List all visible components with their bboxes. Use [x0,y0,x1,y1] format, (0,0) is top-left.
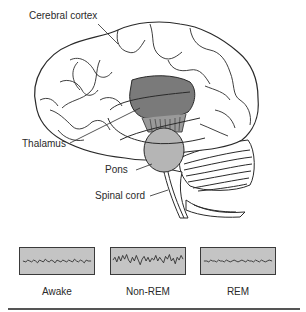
eeg-label-rem: REM [200,286,276,297]
label-spinal-cord: Spinal cord [95,190,145,202]
eeg-trace-awake [20,248,94,274]
label-cerebral-cortex: Cerebral cortex [29,10,97,22]
brain-sleep-diagram: Cerebral cortex Thalamus Pons Spinal cor… [0,0,306,312]
pons-region [144,128,184,172]
eeg-panel-rem [200,247,276,275]
label-pons: Pons [105,164,128,176]
eeg-trace-non-rem [111,248,185,274]
label-thalamus: Thalamus [22,138,66,150]
eeg-label-awake: Awake [19,286,95,297]
eeg-panel-non-rem [110,247,186,275]
eeg-trace-rem [201,248,275,274]
brain-illustration [0,0,306,240]
bottom-divider [8,308,300,310]
eeg-label-non-rem: Non-REM [110,286,186,297]
eeg-panel-awake [19,247,95,275]
